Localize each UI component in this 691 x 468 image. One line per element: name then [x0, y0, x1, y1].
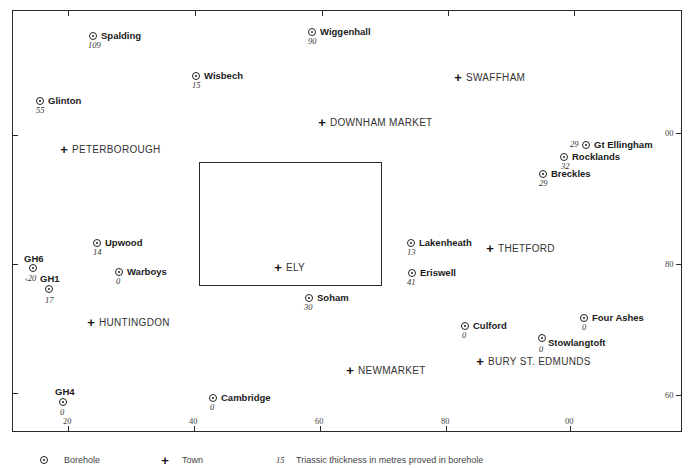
top-tick: [68, 10, 69, 16]
x-tick-label: 00: [565, 416, 574, 426]
borehole-icon: [29, 264, 37, 272]
borehole-icon: [59, 398, 67, 406]
legend: Borehole + Town 15 Triassic thickness in…: [0, 455, 691, 468]
right-tick: [676, 133, 682, 134]
borehole-cambridge: Cambridge: [209, 392, 271, 403]
town-ely: + ELY: [273, 262, 305, 273]
town-cross-icon: +: [317, 118, 327, 128]
borehole-gh4-name: GH4: [55, 386, 75, 397]
town-downham-market: + DOWNHAM MARKET: [317, 117, 433, 128]
town-cross-icon: +: [59, 145, 69, 155]
thickness-value: 90: [308, 36, 317, 46]
borehole-icon: [580, 314, 588, 322]
borehole-gh1-name: GH1: [40, 273, 60, 284]
bottom-tick: [68, 426, 69, 432]
town-cross-icon: +: [86, 318, 96, 328]
borehole-icon: [305, 294, 313, 302]
town-cross-icon: +: [485, 244, 495, 254]
borehole-icon: [560, 153, 568, 161]
town-cross-icon: +: [273, 263, 283, 273]
borehole-icon: [308, 28, 316, 36]
borehole-gt-ellingham: Gt Ellingham: [582, 139, 653, 150]
thickness-value: 30: [304, 302, 313, 312]
legend-town-label: Town: [182, 455, 203, 465]
right-tick: [676, 395, 682, 396]
borehole-icon: [539, 170, 547, 178]
thickness-value: 41: [407, 277, 416, 287]
borehole-stowlangtoft-name: Stowlangtoft: [548, 337, 606, 348]
borehole-icon: [93, 239, 101, 247]
left-tick: [12, 393, 18, 394]
right-tick: [676, 264, 682, 265]
thickness-value: 29: [570, 139, 579, 149]
top-tick: [574, 10, 575, 16]
borehole-icon: [192, 72, 200, 80]
borehole-warboys: Warboys: [115, 266, 167, 277]
top-tick: [195, 10, 196, 16]
thickness-value: 13: [407, 247, 416, 257]
left-tick: [12, 135, 18, 136]
borehole-icon: [461, 322, 469, 330]
legend-town-icon: +: [160, 456, 170, 466]
town-cross-icon: +: [453, 73, 463, 83]
borehole-icon: [89, 32, 97, 40]
thickness-value: ‹20: [25, 273, 36, 283]
thickness-value: 0: [60, 407, 64, 417]
thickness-value: 14: [93, 247, 102, 257]
top-tick: [322, 10, 323, 16]
borehole-icon: [45, 285, 53, 293]
thickness-value: 0: [582, 322, 586, 332]
thickness-value: 0: [210, 402, 214, 412]
town-thetford: + THETFORD: [485, 243, 555, 254]
x-tick-label: 60: [315, 416, 324, 426]
thickness-value: 17: [45, 295, 54, 305]
left-tick: [12, 264, 18, 265]
bottom-tick: [194, 426, 195, 432]
legend-thickness-label: Triassic thickness in metres proved in b…: [296, 455, 483, 465]
thickness-value: 29: [539, 178, 548, 188]
x-tick-label: 20: [63, 416, 72, 426]
thickness-value: 15: [192, 80, 201, 90]
town-bury-st-edmunds: + BURY ST. EDMUNDS: [475, 356, 591, 367]
bottom-tick: [570, 426, 571, 432]
town-swaffham: + SWAFFHAM: [453, 72, 525, 83]
thickness-value: 0: [116, 276, 120, 286]
bottom-tick: [320, 426, 321, 432]
borehole-icon: [582, 141, 590, 149]
borehole-icon: [209, 394, 217, 402]
thickness-value: 0: [462, 330, 466, 340]
borehole-icon: [36, 97, 44, 105]
legend-borehole-icon: [40, 456, 48, 464]
x-tick-label: 80: [441, 416, 450, 426]
town-peterborough: + PETERBOROUGH: [59, 144, 161, 155]
y-tick-label: 00: [665, 128, 674, 138]
town-cross-icon: +: [345, 366, 355, 376]
borehole-icon: [408, 269, 416, 277]
thickness-value: 55: [36, 105, 45, 115]
borehole-four-ashes: Four Ashes: [580, 312, 644, 323]
legend-thickness-example: 15: [276, 455, 285, 465]
y-tick-label: 60: [665, 390, 674, 400]
borehole-icon: [115, 268, 123, 276]
borehole-culford: Culford: [461, 320, 507, 331]
town-huntingdon: + HUNTINGDON: [86, 317, 170, 328]
borehole-icon: [538, 334, 546, 342]
x-tick-label: 40: [189, 416, 198, 426]
town-cross-icon: +: [475, 357, 485, 367]
bottom-tick: [446, 426, 447, 432]
town-newmarket: + NEWMARKET: [345, 365, 426, 376]
thickness-value: 0: [539, 344, 543, 354]
borehole-lakenheath: Lakenheath: [407, 237, 472, 248]
y-tick-label: 80: [665, 259, 674, 269]
thickness-value: 109: [88, 40, 101, 50]
borehole-wiggenhall: Wiggenhall: [308, 26, 371, 37]
borehole-icon: [407, 239, 415, 247]
legend-borehole-label: Borehole: [64, 455, 100, 465]
top-tick: [448, 10, 449, 16]
borehole-gh6-name: GH6: [24, 253, 44, 264]
